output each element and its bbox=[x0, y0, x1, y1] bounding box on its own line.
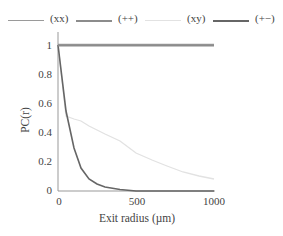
ytick-0: 0 bbox=[47, 184, 53, 196]
ytick-0.6: 0.6 bbox=[38, 97, 52, 109]
xtick-0: 0 bbox=[56, 195, 62, 207]
ytick-0.4: 0.4 bbox=[38, 126, 52, 138]
ytick-1: 1 bbox=[47, 39, 53, 51]
series-xy-line bbox=[58, 45, 214, 179]
series-pm-line bbox=[58, 45, 214, 191]
y-axis-label: PC(r) bbox=[19, 107, 32, 133]
xtick-1000: 1000 bbox=[203, 195, 226, 207]
ytick-0.8: 0.8 bbox=[38, 68, 52, 80]
plot-area: 1 0.8 0.6 0.4 0.2 0 0 500 1000 Exit radi… bbox=[0, 0, 283, 236]
x-axis-label: Exit radius (µm) bbox=[99, 212, 175, 225]
ytick-0.2: 0.2 bbox=[38, 155, 52, 167]
xtick-500: 500 bbox=[129, 195, 146, 207]
